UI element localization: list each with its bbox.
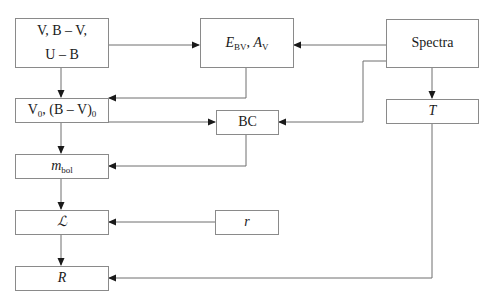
radius-label: R <box>58 265 67 292</box>
bc-label: BC <box>238 109 257 136</box>
color-index: , (B – V) <box>42 102 92 117</box>
node-extinction: EBV, AV <box>200 18 294 68</box>
mbol-subscript: bol <box>61 165 73 175</box>
edge-temperature-radius <box>109 123 432 278</box>
node-bolometric-correction: BC <box>216 110 279 135</box>
node-bolometric-magnitude: mbol <box>15 154 109 179</box>
color-index-subscript: 0 <box>92 109 97 119</box>
node-temperature: T <box>386 99 479 124</box>
photometry-line1: V, B – V, <box>37 19 87 43</box>
node-radius: R <box>15 266 109 291</box>
flow-diagram: V, B – V, U – B EBV, AV Spectra V0, (B –… <box>0 0 492 304</box>
e-symbol: E <box>225 35 234 50</box>
node-dereddened: V0, (B – V)0 <box>15 98 109 123</box>
a-symbol: A <box>254 35 263 50</box>
edge-bc-mbol <box>109 134 246 166</box>
extinction-separator: , <box>247 35 254 50</box>
spectra-label: Spectra <box>412 30 454 57</box>
temperature-label: T <box>429 98 437 125</box>
distance-label: r <box>244 209 249 236</box>
edge-extinction-dereddened <box>109 67 246 98</box>
node-luminosity: ℒ <box>15 210 109 235</box>
luminosity-label: ℒ <box>57 209 67 236</box>
edge-spectra-bc <box>279 61 386 122</box>
e-subscript: BV <box>234 42 247 52</box>
node-distance: r <box>215 210 279 235</box>
node-spectra: Spectra <box>386 19 479 68</box>
a-subscript: V <box>262 42 269 52</box>
v0-symbol: V <box>28 102 38 117</box>
photometry-line2: U – B <box>37 43 87 67</box>
node-photometry: V, B – V, U – B <box>15 18 109 68</box>
mbol-symbol: m <box>51 158 61 173</box>
